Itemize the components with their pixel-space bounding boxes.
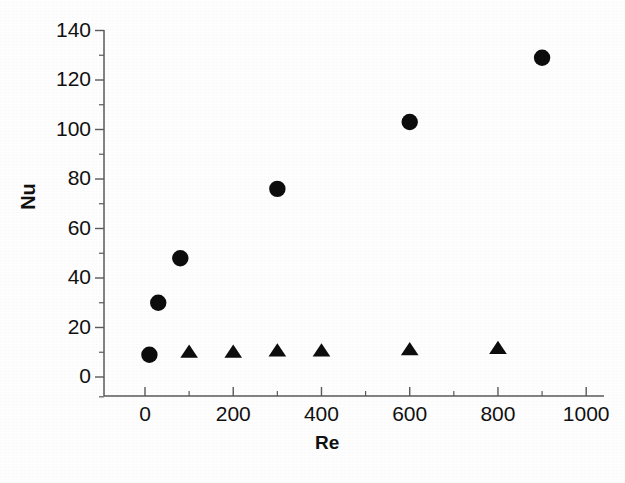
data-point-circle [172,250,188,266]
plot-canvas [0,0,625,483]
data-point-circle [150,295,166,311]
data-point-circle [534,50,550,66]
data-point-circle [141,347,157,363]
data-point-triangle [489,341,507,354]
data-point-triangle [313,343,331,356]
data-point-circle [402,114,418,130]
scatter-plot-figure: Nu Re 020406080100120140 020040060080010… [0,0,625,483]
series-circle-markers [141,50,550,363]
data-point-circle [269,181,285,197]
data-point-triangle [224,344,242,357]
series-triangle-markers [180,341,507,358]
data-point-triangle [180,344,198,357]
data-point-triangle [401,342,419,355]
data-point-triangle [269,343,287,356]
